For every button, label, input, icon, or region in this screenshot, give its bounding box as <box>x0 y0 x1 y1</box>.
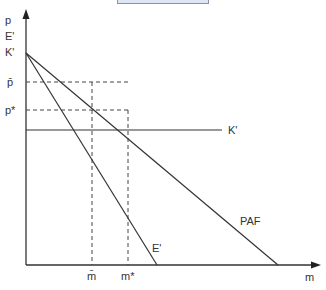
diagram-canvas: p E' K' p̄ p* m̄ m* m E' PAF K' <box>0 0 326 290</box>
label-m-bar: m̄ <box>87 270 96 282</box>
label-p-bar: p̄ <box>7 76 13 88</box>
label-paf: PAF <box>240 215 261 227</box>
label-m-star: m* <box>121 270 135 282</box>
label-p-star: p* <box>5 104 16 116</box>
x-label-m: m <box>305 271 314 283</box>
y-label-p: p <box>5 14 11 26</box>
y-label-e: E' <box>5 30 14 42</box>
label-k-prime: K' <box>228 124 237 136</box>
y-label-k: K' <box>5 46 14 58</box>
paf-curve <box>26 53 278 265</box>
label-e-prime: E' <box>152 242 161 254</box>
y-axis-arrow-icon <box>23 9 30 19</box>
x-axis-arrow-icon <box>311 262 321 269</box>
